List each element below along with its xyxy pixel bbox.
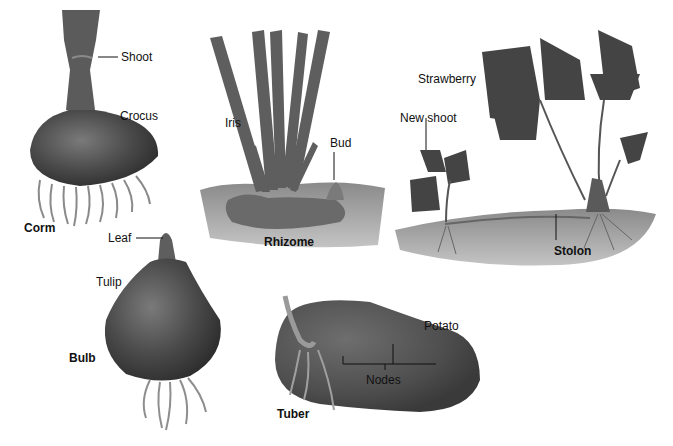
label-potato: Potato bbox=[424, 320, 459, 332]
strawberry-stolon-illustration bbox=[395, 30, 656, 265]
diagram-canvas: Shoot Crocus Corm Iris Bud Rhizome Straw… bbox=[0, 0, 673, 446]
label-leaf: Leaf bbox=[108, 232, 131, 244]
label-crocus: Crocus bbox=[120, 110, 158, 122]
label-corm: Corm bbox=[24, 222, 55, 234]
illustrations bbox=[0, 0, 673, 446]
label-tuber: Tuber bbox=[277, 408, 309, 420]
label-shoot: Shoot bbox=[121, 51, 152, 63]
label-stolon: Stolon bbox=[554, 245, 591, 257]
label-nodes: Nodes bbox=[366, 374, 401, 386]
tulip-bulb-illustration bbox=[105, 233, 221, 430]
label-rhizome: Rhizome bbox=[264, 236, 314, 248]
label-new-shoot: New shoot bbox=[400, 112, 457, 124]
label-tulip: Tulip bbox=[96, 276, 122, 288]
label-iris: Iris bbox=[225, 117, 241, 129]
potato-tuber-illustration bbox=[275, 296, 480, 412]
label-strawberry: Strawberry bbox=[418, 73, 476, 85]
iris-rhizome-illustration bbox=[200, 30, 385, 247]
label-bud: Bud bbox=[330, 137, 351, 149]
label-bulb: Bulb bbox=[69, 352, 96, 364]
